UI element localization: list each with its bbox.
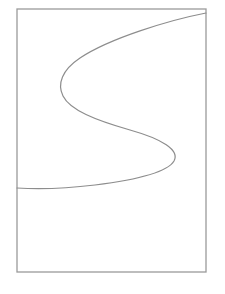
line-drawing-figure — [0, 0, 225, 294]
s-curve — [17, 13, 206, 189]
rectangle-border — [17, 9, 206, 272]
figure-canvas — [0, 0, 225, 294]
